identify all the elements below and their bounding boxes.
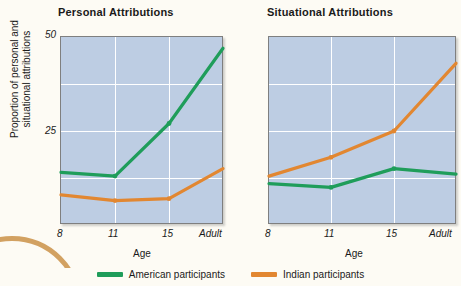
data-point-marker [167, 121, 172, 126]
data-point-marker [113, 198, 118, 203]
series-line-american [61, 48, 223, 176]
series-layer-personal [61, 37, 224, 225]
chart-legend: American participants Indian participant… [0, 262, 461, 286]
data-point-marker [113, 174, 118, 179]
panel-personal-attributions: Personal Attributions Proportion of pers… [0, 0, 245, 258]
y-tick-25: 25 [36, 125, 56, 136]
y-axis-label-text: Proportion of personal and situational a… [9, 9, 33, 149]
x-tick-15: 15 [162, 228, 173, 239]
x-tick-11: 11 [324, 228, 334, 239]
panel-title-personal: Personal Attributions [58, 6, 174, 18]
line-swatch-icon [97, 272, 123, 277]
x-tick-11: 11 [108, 228, 118, 239]
y-axis-label: Proportion of personal and situational a… [9, 9, 35, 149]
x-axis-label-situational: Age [345, 248, 363, 259]
x-tick-adult: Adult [429, 228, 452, 239]
data-point-marker [392, 166, 397, 171]
series-layer-situational [269, 37, 457, 225]
plot-area-situational [268, 36, 456, 224]
data-point-marker [167, 196, 172, 201]
x-tick-adult: Adult [199, 228, 222, 239]
panel-situational-attributions: Situational Attributions 8 11 15 Adult A… [245, 0, 461, 258]
x-tick-8: 8 [57, 228, 63, 239]
series-line-indian [269, 63, 456, 176]
y-tick-50: 50 [36, 29, 56, 40]
legend-item-american: American participants [97, 269, 225, 280]
plot-area-personal [60, 36, 223, 224]
figure-two-panel-line-chart: Personal Attributions Proportion of pers… [0, 0, 461, 286]
legend-label-american: American participants [129, 269, 225, 280]
data-point-marker [392, 129, 397, 134]
legend-label-indian: Indian participants [283, 269, 364, 280]
x-tick-8: 8 [265, 228, 271, 239]
panel-title-situational: Situational Attributions [267, 6, 393, 18]
x-tick-15: 15 [386, 228, 397, 239]
data-point-marker [329, 185, 334, 190]
legend-item-indian: Indian participants [251, 269, 364, 280]
x-axis-label-personal: Age [133, 248, 151, 259]
line-swatch-icon [251, 272, 277, 277]
data-point-marker [329, 155, 334, 160]
series-line-american [269, 169, 456, 188]
